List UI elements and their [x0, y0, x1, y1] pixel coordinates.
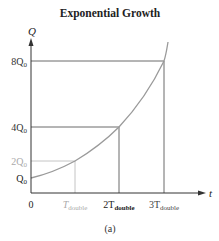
- x-axis-label: t: [209, 187, 213, 199]
- origin-label: 0: [29, 199, 34, 210]
- x-tick-3t-double: 3Tdouble: [149, 199, 179, 212]
- figure-caption: (a): [104, 223, 115, 235]
- chart-title: Exponential Growth: [60, 7, 161, 20]
- y-axis-arrow-icon: [29, 38, 34, 46]
- x-tick-2t-double: 2Tdouble: [103, 199, 134, 212]
- guide-lines: [31, 61, 164, 193]
- axes: [29, 38, 207, 196]
- exponential-curve: [31, 42, 168, 178]
- exponential-growth-diagram: Exponential Growth Q t 0 8Q0 4Q0 2Q0 Q0 …: [0, 0, 219, 241]
- x-axis-arrow-icon: [198, 191, 206, 196]
- y-tick-4q0: 4Q0: [11, 122, 27, 135]
- y-tick-2q0: 2Q0: [11, 156, 27, 169]
- x-tick-t-double: Tdouble: [63, 199, 88, 212]
- y-tick-8q0: 8Q0: [11, 56, 27, 69]
- y-axis-label: Q: [28, 25, 36, 37]
- y-tick-q0: Q0: [16, 173, 27, 186]
